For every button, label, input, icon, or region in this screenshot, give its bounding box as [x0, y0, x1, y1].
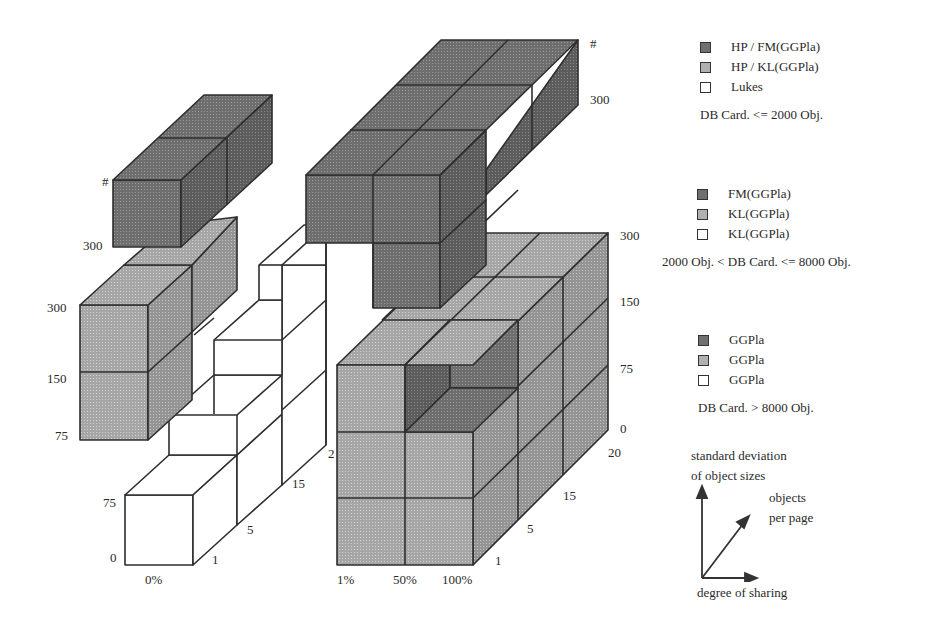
tick-left-300-top: 300 — [83, 238, 103, 253]
dark-swatch-icon — [697, 189, 708, 200]
legend-group-small-db: HP / FM(GGPla) HP / KL(GGPla) Lukes DB C… — [700, 37, 823, 123]
tick-right-0: 0 — [620, 421, 627, 436]
white-swatch-icon — [697, 229, 708, 240]
dark-swatch-icon — [698, 335, 709, 346]
legend-item: KL(GGPla) — [697, 224, 851, 244]
tick-left-hash: # — [102, 174, 109, 189]
legend-label: HP / FM(GGPla) — [731, 39, 820, 55]
dark-swatch-icon — [700, 42, 711, 53]
tick-right-300-top: 300 — [590, 92, 610, 107]
legend-item: KL(GGPla) — [697, 204, 851, 224]
tick-right-1pct: 1% — [337, 572, 355, 587]
legend-item: HP / KL(GGPla) — [700, 57, 823, 77]
tick-right-depth-1: 1 — [495, 553, 502, 568]
axis-key-diagonal-label: objects — [769, 490, 806, 506]
tick-right-hash: # — [590, 36, 597, 51]
tick-right-depth-5: 5 — [527, 521, 534, 536]
legend-item: GGPla — [698, 350, 814, 370]
legend-label: GGPla — [729, 352, 764, 368]
tick-left-150: 150 — [47, 371, 67, 386]
white-swatch-icon — [700, 82, 711, 93]
legend-group-medium-db: FM(GGPla) KL(GGPla) KL(GGPla) 2000 Obj. … — [697, 184, 851, 270]
tick-left-300: 300 — [47, 300, 67, 315]
legend-caption: 2000 Obj. < DB Card. <= 8000 Obj. — [662, 254, 851, 270]
tick-right-100pct: 100% — [442, 572, 473, 587]
axis-key-horizontal-label: degree of sharing — [697, 585, 787, 601]
axes-key: standard deviation of object sizes objec… — [665, 448, 845, 608]
tick-right-depth-15: 15 — [563, 488, 576, 503]
white-swatch-icon — [698, 375, 709, 386]
tick-left-0: 0 — [110, 550, 117, 565]
tick-right-300: 300 — [620, 228, 640, 243]
tick-left-75-upper: 75 — [55, 428, 68, 443]
legend-caption: DB Card. <= 2000 Obj. — [700, 107, 823, 123]
legend-label: KL(GGPla) — [728, 226, 789, 242]
axis-key-diagonal-label-2: per page — [769, 510, 813, 526]
legend-item: HP / FM(GGPla) — [700, 37, 823, 57]
legend-label: KL(GGPla) — [728, 206, 789, 222]
dark-block-left-top — [113, 95, 272, 247]
mid-swatch-icon — [698, 355, 709, 366]
axis-key-vertical-label-2: of object sizes — [691, 468, 765, 484]
mid-swatch-icon — [697, 209, 708, 220]
tick-left-0pct: 0% — [145, 572, 163, 587]
legend-item: FM(GGPla) — [697, 184, 851, 204]
legend-item: GGPla — [698, 330, 814, 350]
tick-left-depth-2: 2 — [328, 446, 335, 461]
tick-right-75: 75 — [620, 361, 633, 376]
tick-left-75: 75 — [103, 495, 116, 510]
tick-right-depth-20: 20 — [608, 445, 621, 460]
tick-left-depth-15: 15 — [292, 476, 305, 491]
legend-label: GGPla — [729, 372, 764, 388]
legend-label: HP / KL(GGPla) — [731, 59, 819, 75]
mid-swatch-icon — [700, 62, 711, 73]
tick-right-150: 150 — [620, 294, 640, 309]
axis-key-vertical-label: standard deviation — [691, 448, 787, 464]
legend-label: GGPla — [729, 332, 764, 348]
legend-label: FM(GGPla) — [728, 186, 791, 202]
tick-left-depth-5: 5 — [247, 522, 254, 537]
legend-item: Lukes — [700, 77, 823, 97]
axis-arrows-icon — [685, 484, 765, 582]
legend-label: Lukes — [731, 79, 763, 95]
tick-left-depth-1: 1 — [212, 552, 219, 567]
legend-item: GGPla — [698, 370, 814, 390]
legend-group-large-db: GGPla GGPla GGPla DB Card. > 8000 Obj. — [698, 330, 814, 416]
tick-right-50pct: 50% — [393, 572, 417, 587]
legend-caption: DB Card. > 8000 Obj. — [698, 400, 814, 416]
